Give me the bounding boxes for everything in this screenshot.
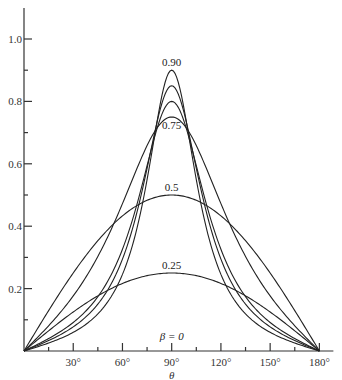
y-tick-label: 0.8	[8, 95, 22, 107]
x-axis-label: θ	[169, 369, 175, 380]
y-tick-label: 0.6	[8, 158, 22, 170]
x-tick-label: 180°	[309, 356, 330, 368]
y-tick-label: 0.2	[8, 283, 22, 295]
x-tick-label: 90°	[164, 356, 179, 368]
curves	[24, 70, 319, 351]
y-tick-label: 0.4	[8, 220, 22, 232]
curve-label: 0.25	[162, 259, 182, 271]
curve-label: 0.5	[165, 181, 179, 193]
curve-0.80	[24, 101, 319, 351]
x-tick-label: 150°	[260, 356, 281, 368]
curve-label: 0.90	[162, 56, 182, 68]
curve-label: 0.75	[162, 119, 182, 131]
x-tick-label: 120°	[210, 356, 231, 368]
chart: 0.20.40.60.81.030°60°90°120°150°180°θ0.9…	[0, 0, 342, 380]
x-tick-label: 30°	[66, 356, 81, 368]
labels: 0.20.40.60.81.030°60°90°120°150°180°θ0.9…	[8, 33, 330, 380]
x-tick-label: 60°	[115, 356, 130, 368]
y-tick-label: 1.0	[8, 33, 22, 45]
beta-zero-label: β = 0	[159, 330, 184, 342]
curve-0.90	[24, 70, 319, 351]
